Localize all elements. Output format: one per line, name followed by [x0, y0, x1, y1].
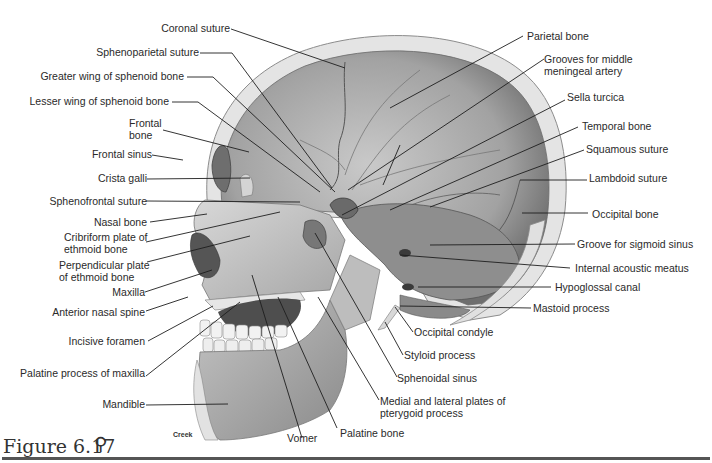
label-nasal-bone: Nasal bone [94, 216, 147, 228]
label-perpendicular-plate: Perpendicular plate of ethmoid bone [59, 259, 149, 283]
label-grooves-line2: meningeal artery [544, 65, 633, 77]
label-lesser-wing-sphenoid: Lesser wing of sphenoid bone [29, 95, 169, 107]
label-mandible: Mandible [102, 398, 145, 410]
label-frontal-bone-line1: Frontal [129, 117, 162, 129]
label-perpendicular-plate-line1: Perpendicular plate [59, 259, 149, 271]
label-pterygoid-line1: Medial and lateral plates of [380, 395, 506, 407]
label-incisive-foramen: Incisive foramen [69, 335, 145, 347]
label-cribriform-plate-line2: ethmoid bone [64, 243, 147, 255]
label-grooves-line1: Grooves for middle [544, 53, 633, 65]
label-crista-galli: Crista galli [98, 172, 147, 184]
caption-rule [2, 457, 710, 460]
label-pterygoid-line2: pterygoid process [380, 407, 506, 419]
label-cribriform-plate: Cribriform plate of ethmoid bone [64, 231, 147, 255]
label-mastoid-process: Mastoid process [533, 302, 609, 314]
label-hypoglossal-canal: Hypoglossal canal [555, 281, 640, 293]
label-sphenoparietal-suture: Sphenoparietal suture [96, 46, 199, 58]
artist-credit: Creek [173, 431, 192, 438]
label-occipital-bone: Occipital bone [592, 208, 659, 220]
label-parietal-bone: Parietal bone [527, 30, 589, 42]
label-pterygoid-plates: Medial and lateral plates of pterygoid p… [380, 395, 506, 419]
label-grooves-middle-meningeal: Grooves for middle meningeal artery [544, 53, 633, 77]
label-palatine-process-maxilla: Palatine process of maxilla [20, 367, 145, 379]
label-temporal-bone: Temporal bone [582, 120, 651, 132]
label-anterior-nasal-spine: Anterior nasal spine [52, 306, 145, 318]
label-sphenoidal-sinus: Sphenoidal sinus [397, 372, 477, 384]
anatomy-figure: Coronal suture Sphenoparietal suture Gre… [0, 0, 712, 463]
label-frontal-bone: Frontal bone [129, 117, 162, 141]
label-sella-turcica: Sella turcica [567, 91, 624, 103]
label-perpendicular-plate-line2: of ethmoid bone [59, 271, 149, 283]
label-groove-sigmoid-sinus: Groove for sigmoid sinus [577, 238, 693, 250]
label-lambdoid-suture: Lambdoid suture [589, 172, 667, 184]
label-maxilla: Maxilla [112, 286, 145, 298]
label-palatine-bone: Palatine bone [340, 427, 404, 439]
label-vomer: Vomer [287, 432, 317, 444]
label-squamous-suture: Squamous suture [586, 143, 668, 155]
label-internal-acoustic-meatus: Internal acoustic meatus [575, 262, 689, 274]
label-frontal-bone-line2: bone [129, 129, 162, 141]
label-greater-wing-sphenoid: Greater wing of sphenoid bone [40, 70, 184, 82]
label-occipital-condyle: Occipital condyle [414, 326, 493, 338]
label-styloid-process: Styloid process [404, 349, 475, 361]
label-coronal-suture: Coronal suture [161, 22, 230, 34]
label-frontal-sinus: Frontal sinus [92, 148, 152, 160]
label-cribriform-plate-line1: Cribriform plate of [64, 231, 147, 243]
anatomy-figure-icon: ⚲ [94, 433, 107, 454]
label-sphenofrontal-suture: Sphenofrontal suture [50, 195, 147, 207]
